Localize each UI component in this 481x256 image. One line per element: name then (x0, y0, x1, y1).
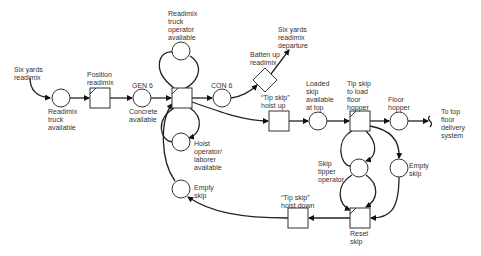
label-reset-skip: Reset skip (350, 230, 368, 246)
label-batten-up-readimix: Batten up readimix (250, 51, 280, 67)
readimix-truck-queue (52, 89, 70, 107)
label-readimix-operator-available: Readimix truck operator available (168, 10, 197, 42)
empty-skip-left-queue (172, 180, 190, 198)
label-concrete-available: Concrete available (129, 108, 157, 124)
gen6-queue (133, 89, 151, 107)
label-six-yards-readimix: Six yards readimix (14, 66, 43, 82)
label-hoist-operator-available: Hoist operator/ laborer available (194, 140, 222, 172)
label-loaded-skip-available: Loaded skip available at top (306, 80, 334, 112)
label-to-top-floor: To top floor delivery system (441, 108, 465, 140)
skip-tipper-queue (350, 159, 368, 177)
label-tip-skip-load-hopper: Tip skip to load floor hopper (347, 80, 371, 112)
label-readimix-truck-available: Readimix truck available (48, 108, 77, 132)
hoist-up-normal (269, 111, 289, 131)
con6-queue (213, 89, 231, 107)
empty-skip-right-queue (390, 159, 408, 177)
hoist-operator-queue (172, 133, 190, 151)
label-tip-skip-hoist-up: “Tip skip” hoist up (261, 94, 290, 110)
operator-queue (172, 42, 190, 60)
label-con6: CON 6 (211, 82, 232, 90)
label-floor-hopper: Floor hopper (388, 96, 410, 112)
label-skip-tipper-operator: Skip tipper operator (318, 160, 344, 184)
label-gen6: GEN 6 (132, 82, 153, 90)
label-empty-skip-right: Empty skip (409, 162, 429, 178)
hoist-down-normal (288, 208, 308, 228)
floor-hopper-queue (390, 112, 408, 130)
loaded-skip-queue (309, 112, 327, 130)
label-six-yards-departure: Six yards readimix departure (278, 26, 308, 50)
label-position-readimix: Position readimix (87, 71, 113, 87)
label-empty-skip-left: Empty skip (194, 184, 214, 200)
label-tip-skip-hoist-down: “Tip skip” hoist down (281, 194, 314, 210)
